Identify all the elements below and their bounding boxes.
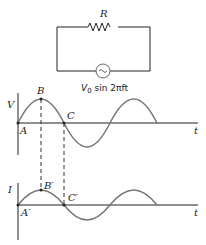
resistive-ac-circuit-diagram: R V0 sin 2πft V t A B C I t A′ B′ C′ (0, 0, 206, 245)
point-a-prime (17, 204, 20, 207)
source-label: V0 sin 2πft (81, 83, 128, 95)
wire-right (110, 27, 150, 71)
label-c: C (67, 110, 75, 121)
voltage-graph (17, 93, 199, 155)
label-a: A (19, 125, 27, 136)
v-t-label: t (194, 125, 199, 136)
i-t-label: t (194, 207, 199, 218)
point-b-prime (40, 189, 43, 192)
point-c-prime (63, 204, 66, 207)
circuit (57, 23, 150, 78)
v-axis-label: V (7, 99, 16, 110)
label-b: B (36, 85, 44, 96)
sine-symbol-icon (99, 70, 107, 73)
wire-left (57, 27, 96, 71)
resistor-label: R (99, 8, 108, 19)
label-b-prime: B′ (43, 180, 54, 191)
label-a-prime: A′ (20, 207, 31, 218)
label-c-prime: C′ (68, 192, 79, 203)
resistor-icon (88, 23, 110, 31)
i-axis-label: I (7, 184, 13, 195)
current-graph (17, 183, 199, 240)
